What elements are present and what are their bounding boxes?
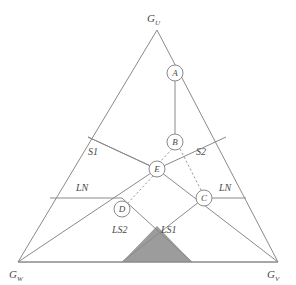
vertex-label-bottom-left: GW — [9, 268, 24, 283]
region-label-s2: S2 — [196, 146, 206, 157]
node-b-to-node-e-dashed — [160, 149, 172, 162]
node-marker-d[interactable]: D — [114, 201, 130, 217]
node-label-e: E — [153, 164, 160, 174]
vertex-top-sub: U — [155, 19, 161, 27]
vertex-bottom-right-sub: V — [275, 275, 280, 283]
ternary-diagram-root: GU GW GV S1 S2 LN LN LS2 LS1 A — [0, 0, 296, 285]
node-label-a: A — [171, 68, 178, 78]
region-label-ls1: LS1 — [160, 224, 177, 235]
dashed-connector-lines — [127, 149, 201, 204]
vertex-label-bottom-right: GV — [267, 268, 280, 283]
vertex-bottom-left-sub: W — [17, 275, 24, 283]
ternary-phase-diagram: GU GW GV S1 S2 LN LN LS2 LS1 A — [0, 0, 296, 285]
node-marker-e[interactable]: E — [149, 161, 165, 177]
node-marker-c[interactable]: C — [196, 190, 212, 206]
s1-boundary-left-b — [88, 137, 157, 169]
vertex-label-top: GU — [147, 12, 161, 27]
vertex-bottom-right-base: G — [267, 268, 275, 280]
node-marker-a[interactable]: A — [167, 65, 183, 81]
vertex-top-base: G — [147, 12, 155, 24]
region-label-s1: S1 — [88, 146, 98, 157]
main-triangle-outline — [18, 30, 278, 262]
solid-boundary-lines — [18, 81, 278, 262]
node-label-d: D — [118, 204, 126, 214]
node-marker-b[interactable]: B — [167, 134, 183, 150]
node-markers: A B E C D — [114, 65, 212, 217]
region-labels: S1 S2 LN LN LS2 LS1 — [75, 146, 233, 235]
node-label-c: C — [201, 193, 208, 203]
region-label-ln-right: LN — [218, 182, 233, 193]
vertex-bottom-left-base: G — [9, 268, 17, 280]
shaded-two-phase-field — [122, 226, 192, 262]
region-label-ls2: LS2 — [111, 224, 128, 235]
node-label-b: B — [172, 137, 178, 147]
region-label-ln-left: LN — [75, 182, 90, 193]
